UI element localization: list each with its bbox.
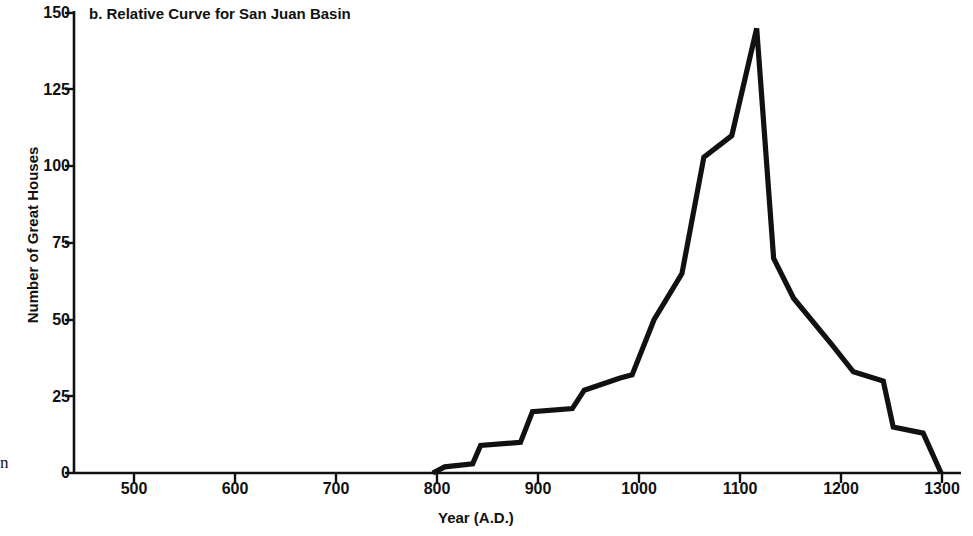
data-series-line <box>433 28 941 473</box>
chart-plot-area <box>0 0 973 536</box>
x-axis-ticks <box>134 473 942 483</box>
y-axis-ticks <box>65 13 74 473</box>
figure-panel-b: Number of Great Houses 150 125 100 75 50… <box>0 0 973 536</box>
